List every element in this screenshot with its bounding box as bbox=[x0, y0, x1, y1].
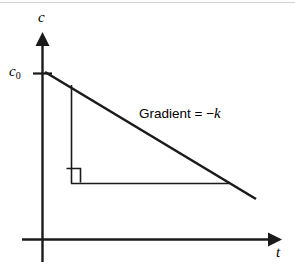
gradient-annotation-sign: − bbox=[206, 106, 214, 121]
diagram-canvas bbox=[0, 0, 295, 269]
gradient-annotation-prefix: Gradient = bbox=[139, 106, 206, 121]
gradient-annotation-variable: k bbox=[214, 105, 221, 121]
c0-subscript: 0 bbox=[16, 70, 21, 81]
c0-symbol: c bbox=[9, 63, 16, 79]
concentration-axis bbox=[36, 32, 50, 262]
concentration-decay-line bbox=[45, 72, 256, 199]
concentration-time-diagram: c t c0 Gradient = −k bbox=[0, 0, 295, 269]
concentration-axis-label: c bbox=[38, 10, 45, 25]
right-angle-marker bbox=[67, 169, 81, 183]
c0-tick-label: c0 bbox=[9, 64, 21, 79]
gradient-annotation: Gradient = −k bbox=[139, 106, 221, 121]
concentration-axis-arrowhead bbox=[36, 32, 50, 46]
time-axis-label: t bbox=[276, 245, 280, 260]
time-axis bbox=[22, 233, 282, 247]
